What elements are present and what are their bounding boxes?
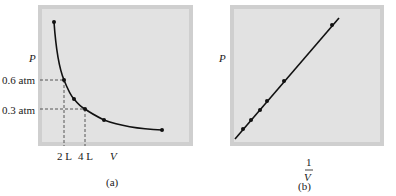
panel-a-caption: (a)	[106, 176, 118, 188]
panel-b-xlabel-numerator: 1	[306, 156, 312, 168]
chart-graphics	[0, 0, 396, 196]
panel-a-xtick-2L: 2 L	[57, 150, 72, 162]
panel-a-ytick-0.3: 0.3 atm	[2, 104, 35, 116]
panel-a-guides	[40, 80, 85, 146]
panel-b-caption: (b)	[298, 180, 311, 192]
panel-a-ylabel: P	[29, 52, 36, 64]
panel-a-curve	[54, 22, 162, 130]
panel-b-ylabel: P	[219, 52, 226, 64]
panel-a-points	[52, 20, 164, 132]
panel-a-ytick-0.6: 0.6 atm	[2, 74, 35, 86]
panel-a-xtick-4L: 4 L	[78, 150, 93, 162]
panel-a-xlabel: V	[110, 150, 117, 162]
